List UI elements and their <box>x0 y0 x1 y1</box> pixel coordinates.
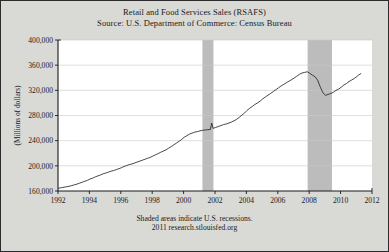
ytick-label: 400,000 <box>28 36 53 45</box>
chart-source-line: Source: U.S. Department of Commerce: Cen… <box>9 18 380 29</box>
xtick-label: 1996 <box>113 196 128 205</box>
xtick-label: 1992 <box>50 196 65 205</box>
source-attribution: 2011 research.stlouisfed.org <box>9 223 380 232</box>
xtick-label: 2010 <box>333 196 348 205</box>
xtick-label: 1994 <box>82 196 97 205</box>
ytick-label: 160,000 <box>28 187 53 196</box>
page-title: Retail and Food Services Sales (RSAFS) <box>9 7 380 18</box>
chart-title-block: Retail and Food Services Sales (RSAFS) S… <box>9 7 380 28</box>
ytick-label: 360,000 <box>28 61 53 70</box>
ytick-label: 240,000 <box>28 136 53 145</box>
xtick-label: 2008 <box>302 196 317 205</box>
chart-container: Retail and Food Services Sales (RSAFS) S… <box>9 7 380 245</box>
xtick-label: 2004 <box>239 196 254 205</box>
ytick-label: 280,000 <box>28 111 53 120</box>
xtick-label: 2006 <box>270 196 285 205</box>
recession-note: Shaded areas indicate U.S. recessions. <box>9 214 380 223</box>
chart-plot-area: 160,000200,000240,000280,000320,000360,0… <box>9 28 380 218</box>
ytick-label: 200,000 <box>28 162 53 171</box>
xtick-label: 1998 <box>145 196 160 205</box>
xtick-label: 2000 <box>176 196 191 205</box>
y-axis-title: (Millions of dollars) <box>13 85 22 145</box>
chart-footer-block: Shaded areas indicate U.S. recessions. 2… <box>9 214 380 233</box>
line-chart: 160,000200,000240,000280,000320,000360,0… <box>9 28 380 218</box>
ytick-label: 320,000 <box>28 86 53 95</box>
xtick-label: 2012 <box>364 196 379 205</box>
xtick-label: 2002 <box>207 196 222 205</box>
chart-page: Retail and Food Services Sales (RSAFS) S… <box>0 0 389 252</box>
